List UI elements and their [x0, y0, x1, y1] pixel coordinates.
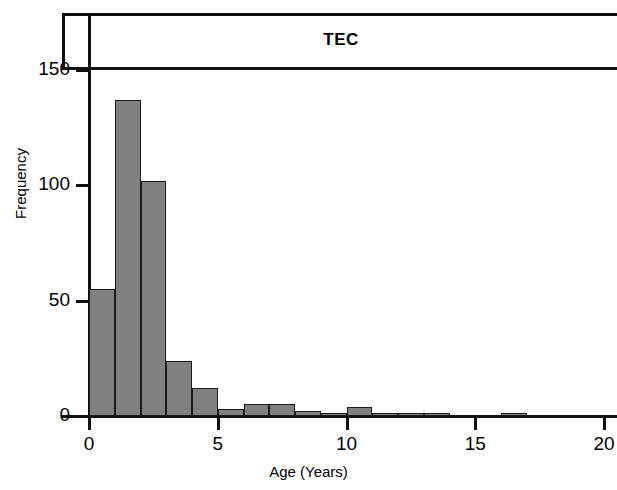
y-axis-tick	[76, 69, 90, 72]
histogram-figure: TEC 050100150 05101520 Age (Years) Frequ…	[0, 0, 617, 490]
x-axis-label: Age (Years)	[0, 463, 617, 480]
y-axis-tick-label: 150	[28, 58, 70, 80]
y-axis-tick-label: 50	[28, 289, 70, 311]
x-axis-tick	[346, 416, 349, 430]
x-axis-tick-label: 5	[198, 433, 238, 455]
plot-area	[89, 70, 617, 416]
x-axis-tick	[474, 416, 477, 430]
histogram-bar	[372, 413, 398, 416]
y-axis-label: Frequency	[12, 84, 29, 284]
x-axis-tick	[603, 416, 606, 430]
histogram-bar	[192, 388, 218, 416]
histogram-bar	[244, 404, 270, 416]
x-axis-tick-label: 0	[69, 433, 109, 455]
chart-title: TEC	[65, 30, 617, 50]
y-axis-tick	[76, 184, 90, 187]
histogram-bar	[115, 100, 141, 416]
histogram-bar	[347, 407, 373, 416]
x-axis-tick-label: 20	[584, 433, 617, 455]
histogram-bar	[166, 361, 192, 416]
x-axis-tick	[88, 416, 91, 430]
histogram-bar	[141, 181, 167, 416]
x-axis-tick-label: 10	[327, 433, 367, 455]
histogram-bar	[218, 409, 244, 416]
histogram-bar	[398, 413, 424, 416]
y-axis-tick-label: 100	[28, 173, 70, 195]
y-axis-tick	[76, 300, 90, 303]
y-axis-tick-label: 0	[28, 404, 70, 426]
histogram-bar	[269, 404, 295, 416]
histogram-bar	[89, 289, 115, 416]
histogram-bar	[424, 413, 450, 416]
histogram-bar	[501, 413, 527, 416]
title-strip: TEC	[62, 13, 617, 70]
x-axis-tick	[217, 416, 220, 430]
x-axis-tick-label: 15	[455, 433, 495, 455]
histogram-bar	[321, 413, 347, 416]
histogram-bar	[295, 411, 321, 416]
